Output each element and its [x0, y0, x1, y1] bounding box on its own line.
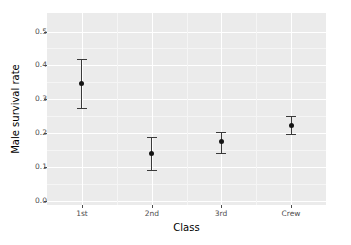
chart-root: 0.00.10.20.30.40.5 1st2nd3rdCrew Class M…	[0, 0, 351, 245]
x-tick-mark	[291, 205, 292, 208]
x-axis-title: Class	[47, 222, 326, 233]
x-tick-label-3rd: 3rd	[196, 210, 246, 218]
x-tick-mark	[221, 205, 222, 208]
y-axis-tick-labels: 0.00.10.20.30.40.5	[0, 13, 351, 205]
x-tick-label-2nd: 2nd	[127, 210, 177, 218]
x-tick-mark	[152, 205, 153, 208]
y-axis-title: Male survival rate	[9, 13, 23, 205]
x-tick-label-Crew: Crew	[266, 210, 316, 218]
x-tick-label-1st: 1st	[57, 210, 107, 218]
x-tick-mark	[82, 205, 83, 208]
